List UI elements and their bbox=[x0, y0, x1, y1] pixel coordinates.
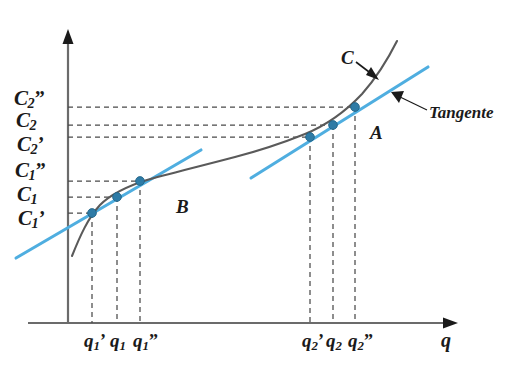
y-tick-label-c1: C1 bbox=[17, 184, 38, 206]
y-tick-label-c2p: C2’ bbox=[17, 134, 44, 156]
cost-curve-diagram bbox=[0, 0, 507, 371]
y-axis-arrow-icon bbox=[63, 29, 74, 44]
tangent-lines-group bbox=[16, 67, 428, 258]
x-tick-label-q2: q2 bbox=[326, 331, 342, 353]
x-tick-label-q1pp: q1” bbox=[133, 331, 158, 353]
annotation-label-tangente: Tangente bbox=[429, 104, 494, 121]
x-tick-label-q2pp: q2” bbox=[348, 331, 373, 353]
data-point-q2pp[interactable] bbox=[351, 103, 360, 112]
x-tick-label-q1p: q1’ bbox=[84, 331, 106, 353]
x-tick-label-q1: q1 bbox=[110, 331, 126, 353]
y-tick-label-c1p: C1’ bbox=[18, 208, 45, 230]
axes-group bbox=[28, 29, 458, 329]
data-point-q2p[interactable] bbox=[306, 133, 315, 142]
figure-canvas: C2” C2 C2’ C1” C1 C1’ q1’ q1 q1” q2’ q2 … bbox=[0, 0, 507, 371]
x-axis-arrow-icon bbox=[443, 318, 458, 329]
data-point-q2[interactable] bbox=[329, 121, 338, 130]
y-tick-label-c1pp: C1” bbox=[15, 160, 45, 182]
x-tick-label-q2p: q2’ bbox=[302, 331, 324, 353]
cost-curve-path bbox=[72, 41, 397, 256]
annotation-label-c: C bbox=[341, 48, 354, 67]
data-point-q1pp[interactable] bbox=[136, 177, 145, 186]
arrow-tangente-shaft bbox=[398, 96, 427, 110]
arrow-tangente-head-icon bbox=[391, 91, 404, 103]
y-tick-label-c2: C2 bbox=[16, 110, 37, 132]
annotation-label-b: B bbox=[176, 197, 189, 216]
annotation-arrows-group bbox=[356, 62, 427, 110]
data-point-q1p[interactable] bbox=[88, 209, 97, 218]
data-point-q1[interactable] bbox=[113, 193, 122, 202]
tangent-line-upper bbox=[251, 67, 428, 178]
annotation-label-a: A bbox=[370, 123, 383, 142]
vertical-guides-group bbox=[92, 107, 355, 323]
x-axis-name-label: q bbox=[441, 330, 451, 350]
